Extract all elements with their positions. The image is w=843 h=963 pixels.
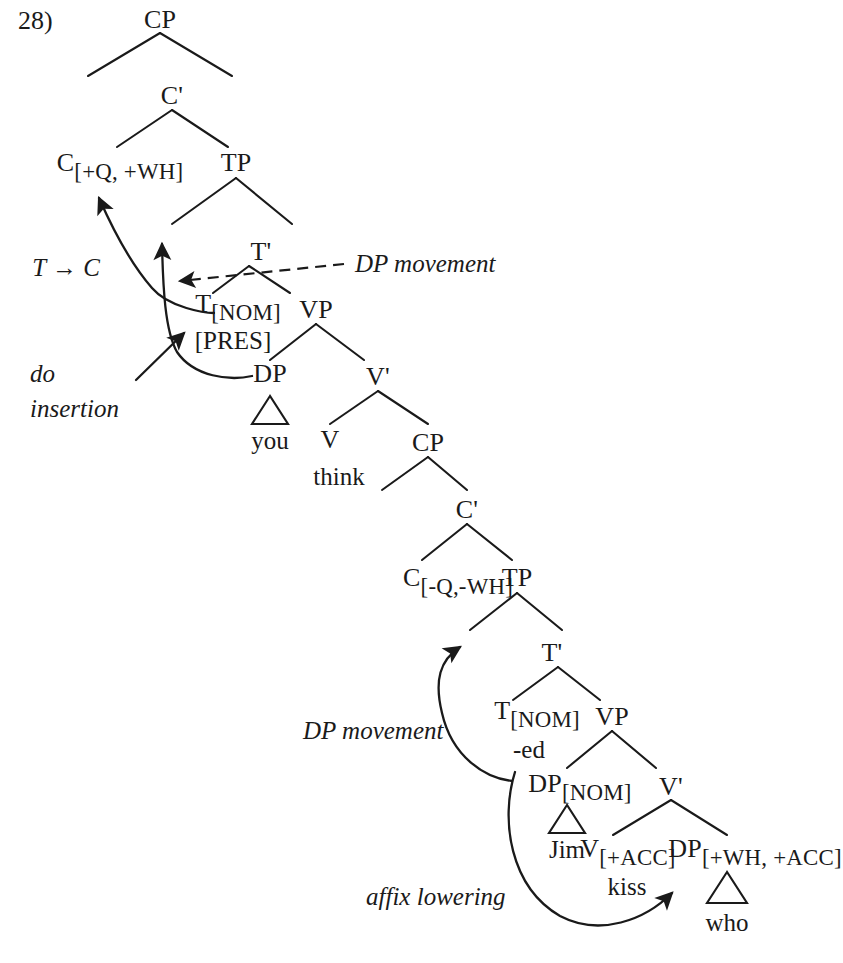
node-embedded-vbar: V' [659, 774, 683, 800]
node-matrix-v-head: V [321, 427, 340, 453]
annotation-affix-lowering: affix lowering [366, 882, 506, 912]
node-matrix-vp: VP [299, 297, 333, 323]
node-matrix-tp: TP [221, 150, 252, 176]
node-embedded-object-dp-features: [+WH, +ACC] [702, 845, 842, 870]
node-matrix-cbar: C' [161, 83, 183, 109]
node-matrix-subject-dp: DP [253, 361, 287, 387]
triangle-jim [549, 805, 585, 833]
branch-vbar-cp [378, 391, 428, 424]
node-embedded-subject-dp: DP[NOM] [528, 771, 631, 797]
branch-cp-cbar [160, 33, 232, 76]
triangle-who [707, 872, 747, 903]
branch-cbar-c [117, 110, 172, 147]
branch-etp-tbar [517, 593, 562, 630]
branch-evp-dp [567, 731, 612, 768]
branch-ecbar-tp [467, 524, 512, 560]
node-matrix-t-features: [NOM] [211, 300, 281, 325]
example-number: 28) [18, 8, 53, 34]
annotation-dp-movement-embedded: DP movement [303, 716, 443, 746]
node-embedded-c-head: C[-Q,-WH] [403, 565, 513, 591]
node-embedded-tp: TP [502, 565, 533, 591]
branch-evbar-dp [671, 800, 727, 835]
branch-vp-vbar [316, 324, 364, 360]
node-embedded-object-dp-label: DP [668, 834, 702, 863]
tree-lines-and-arrows [0, 0, 843, 963]
node-embedded-object-dp: DP[+WH, +ACC] [668, 836, 841, 862]
triangle-you [252, 396, 288, 424]
leaf-ed-affix: -ed [513, 737, 545, 762]
branch-etbar-t [513, 667, 558, 700]
node-matrix-cp: CP [144, 7, 176, 33]
node-matrix-t-head: T[NOM] [195, 291, 281, 317]
leaf-you: you [251, 428, 289, 453]
branch-cbar-tp [172, 110, 228, 147]
branch-tbar-t [213, 266, 249, 293]
branch-etbar-vp [558, 667, 600, 700]
node-embedded-cp: CP [412, 430, 444, 456]
branch-ecp-left [382, 457, 428, 490]
node-matrix-t-tense: [PRES] [195, 328, 271, 353]
branch-evbar-v [613, 800, 671, 835]
node-embedded-tbar: T' [542, 640, 563, 666]
node-embedded-cbar: C' [456, 497, 478, 523]
node-embedded-t-features: [NOM] [510, 707, 580, 732]
annotation-t-to-c: T → C [32, 253, 100, 283]
branch-evp-vbar [612, 731, 656, 768]
arrow-do-insertion [136, 333, 184, 380]
branch-ecbar-c [422, 524, 467, 560]
syntax-tree-figure: 28) CP C' C[+Q, +WH] TP T' T[NOM] [PRES]… [0, 0, 843, 963]
annotation-dp-movement-matrix: DP movement [355, 249, 495, 279]
branch-tp-tbar [236, 178, 292, 224]
node-matrix-tbar: T' [251, 239, 272, 265]
node-embedded-v-head: V[+ACC] [580, 836, 675, 862]
node-embedded-subject-dp-label: DP [528, 769, 562, 798]
node-embedded-v-label: V [580, 834, 599, 863]
branch-vp-dp [270, 324, 316, 360]
annotation-do-insertion-line1: do [30, 359, 55, 389]
node-embedded-subject-dp-features: [NOM] [562, 780, 632, 805]
tree-branches [88, 33, 727, 835]
node-embedded-c-label: C [403, 563, 421, 592]
node-matrix-t-label: T [195, 289, 211, 318]
node-matrix-vbar: V' [366, 364, 390, 390]
node-embedded-t-head: T[NOM] [494, 698, 580, 724]
annotation-do-insertion-line2: insertion [30, 394, 119, 424]
node-embedded-v-features: [+ACC] [599, 845, 675, 870]
arrow-dp-movement-dashed-matrix [180, 264, 344, 281]
node-matrix-c-head: C[+Q, +WH] [57, 150, 183, 176]
leaf-think: think [313, 464, 364, 489]
node-embedded-c-features: [-Q,-WH] [421, 574, 513, 599]
leaf-who: who [705, 910, 748, 935]
node-matrix-c-label: C [57, 148, 75, 177]
branch-ecp-cbar [428, 457, 467, 490]
node-matrix-c-features: [+Q, +WH] [74, 159, 183, 184]
branch-vbar-v [330, 391, 378, 424]
leaf-kiss: kiss [608, 874, 647, 899]
node-embedded-vp: VP [595, 704, 629, 730]
node-embedded-t-label: T [494, 696, 510, 725]
branch-tbar-vp [249, 266, 290, 293]
branch-tp-spec [172, 178, 236, 224]
branch-cp-left [88, 33, 160, 76]
